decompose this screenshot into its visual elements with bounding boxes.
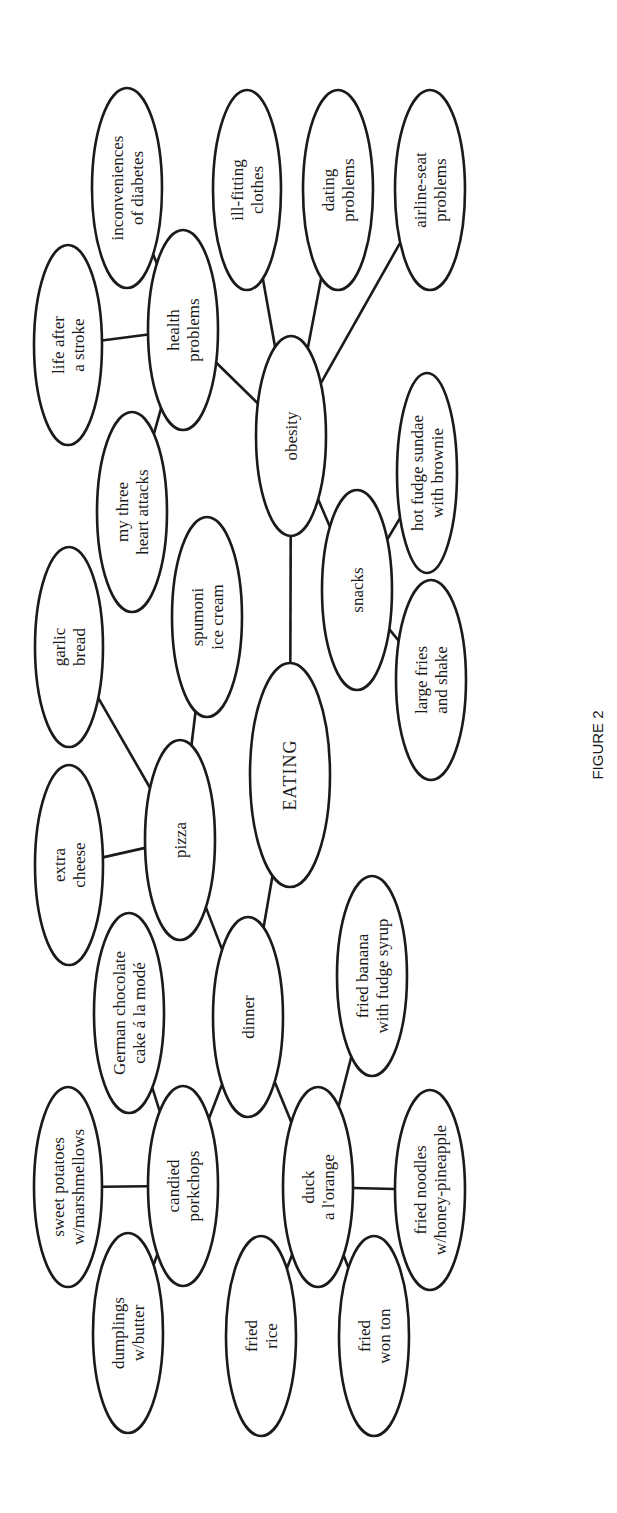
node-german-chocolate-cake: German chocolatecake á la modé <box>94 913 164 1113</box>
node-label-line: obesity <box>282 411 301 461</box>
node-label-line: dinner <box>239 995 258 1039</box>
node-label-line: dating <box>319 168 338 211</box>
node-label-line: dumplings <box>109 1297 128 1369</box>
diagram-canvas: EATINGdinnerobesitypizzacandiedporkchops… <box>0 0 617 1513</box>
node-label: sweet potatoesw/marshmellows <box>49 1129 88 1245</box>
node-ellipse <box>97 412 167 612</box>
edge-duck-a-lorange-to-fried-banana <box>339 1057 352 1107</box>
node-label-line: cake á la modé <box>130 962 149 1063</box>
edge-pizza-to-spumoni-ice-cream <box>191 712 195 746</box>
node-label-line: w/marshmellows <box>69 1129 88 1245</box>
edge-duck-a-lorange-to-fried-noodles <box>353 1188 395 1189</box>
node-label-line: problems <box>339 158 358 221</box>
edge-pizza-to-extra-cheese <box>103 848 145 858</box>
node-label-line: porkchops <box>184 1151 203 1222</box>
node-label-line: cheese <box>70 842 89 887</box>
node-label-line: clothes <box>248 166 267 214</box>
node-label: German chocolatecake á la modé <box>110 951 149 1075</box>
node-hot-fudge-sundae: hot fudge sundaewith brownie <box>397 373 457 573</box>
node-snacks: snacks <box>322 490 392 690</box>
node-dinner: dinner <box>213 917 283 1117</box>
edge-obesity-to-ill-fitting-clothes <box>263 279 275 347</box>
node-health-problems: healthproblems <box>148 230 218 430</box>
node-label-line: sweet potatoes <box>49 1137 68 1237</box>
node-my-three-heart-attacks: my threeheart attacks <box>97 412 167 612</box>
node-ellipse <box>148 230 218 430</box>
node-ellipse <box>35 765 103 965</box>
edge-health-problems-to-my-three-heart-attacks <box>154 408 161 434</box>
node-label-line: fried banana <box>353 933 372 1018</box>
node-label-line: won ton <box>375 1308 394 1364</box>
node-label-line: of diabetes <box>128 151 147 225</box>
node-label: airline-seatproblems <box>411 152 450 228</box>
node-ellipse <box>94 913 164 1113</box>
node-label-line: fried noodles <box>411 1145 430 1234</box>
edge-dinner-to-pizza <box>206 907 222 949</box>
node-label: spumoniice cream <box>188 584 227 650</box>
node-large-fries-and-shake: large friesand shake <box>396 580 466 780</box>
edge-dinner-to-candied-porkchops <box>209 1084 222 1118</box>
node-extra-cheese: extracheese <box>35 765 103 965</box>
node-label: pizza <box>171 822 190 858</box>
edge-snacks-to-hot-fudge-sundae <box>387 518 400 540</box>
edge-snacks-to-large-fries-and-shake <box>389 629 399 641</box>
node-label-line: bread <box>70 628 89 666</box>
node-fried-won-ton: friedwon ton <box>339 1236 409 1436</box>
node-label-line: pizza <box>171 822 190 858</box>
node-label-line: w/honey-pineapple <box>431 1125 450 1255</box>
node-ellipse <box>226 1236 296 1436</box>
node-label: EATING <box>280 740 300 811</box>
node-label-line: with brownie <box>428 428 447 518</box>
edge-obesity-to-snacks <box>318 499 330 526</box>
node-spumoni-ice-cream: spumoniice cream <box>172 517 242 717</box>
node-label-line: life after <box>49 316 68 374</box>
node-ellipse <box>339 1236 409 1436</box>
node-label-line: w/butter <box>129 1304 148 1361</box>
node-label: inconveniencesof diabetes <box>108 136 147 241</box>
node-label-line: health <box>164 309 183 351</box>
node-label: my threeheart attacks <box>113 469 152 554</box>
figure-caption: FIGURE 2 <box>589 710 606 779</box>
node-label-line: problems <box>184 298 203 361</box>
node-label-line: duck <box>299 1170 318 1204</box>
node-label: life aftera stroke <box>49 316 88 374</box>
node-label-line: rice <box>262 1323 281 1348</box>
node-ellipse <box>395 90 465 290</box>
edge-health-problems-to-life-after-a-stroke <box>102 335 148 341</box>
node-label-line: spumoni <box>188 587 207 646</box>
node-label: garlicbread <box>50 627 89 666</box>
node-label: large friesand shake <box>412 646 451 714</box>
edge-duck-a-lorange-to-fried-rice <box>287 1255 292 1269</box>
edge-eating-to-dinner <box>264 876 273 928</box>
node-ellipse <box>337 876 407 1076</box>
figure-caption-text: FIGURE 2 <box>589 710 606 779</box>
node-ellipse <box>303 90 373 290</box>
node-ellipse <box>34 245 102 445</box>
node-ellipse <box>395 1090 465 1290</box>
node-ellipse <box>35 547 103 747</box>
node-label-line: hot fudge sundae <box>408 415 427 531</box>
node-inconveniences-of-diabetes: inconveniencesof diabetes <box>92 88 162 288</box>
node-ellipse <box>172 517 242 717</box>
node-ellipse <box>213 90 281 290</box>
edge-obesity-to-health-problems <box>216 362 258 403</box>
node-label-line: ill-fitting <box>228 159 247 221</box>
node-label: friedrice <box>242 1319 281 1352</box>
edge-obesity-to-dating-problems <box>308 278 321 348</box>
node-sweet-potatoes: sweet potatoesw/marshmellows <box>34 1087 102 1287</box>
node-ellipse <box>93 1233 163 1433</box>
node-label: hot fudge sundaewith brownie <box>408 415 447 531</box>
node-candied-porkchops: candiedporkchops <box>148 1086 218 1286</box>
cluster-diagram: EATINGdinnerobesitypizzacandiedporkchops… <box>0 0 617 1513</box>
node-label-line: problems <box>431 158 450 221</box>
node-label: dumplingsw/butter <box>109 1297 148 1369</box>
node-label-line: airline-seat <box>411 152 430 228</box>
node-label-line: German chocolate <box>110 951 129 1075</box>
node-label-line: a stroke <box>69 318 88 371</box>
node-fried-banana: fried bananawith fudge syrup <box>337 876 407 1076</box>
node-ellipse <box>396 580 466 780</box>
node-label: ill-fittingclothes <box>228 159 267 221</box>
node-ellipse <box>92 88 162 288</box>
node-airline-seat-problems: airline-seatproblems <box>395 90 465 290</box>
node-life-after-a-stroke: life aftera stroke <box>34 245 102 445</box>
